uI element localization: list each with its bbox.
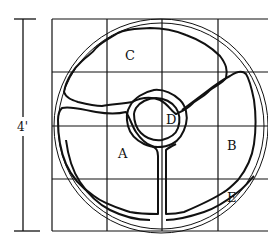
left-wavy-edge [66,140,150,220]
region-label-e: E [227,190,237,205]
garden-plan-diagram: 4' C D A B E [0,0,268,251]
region-label-d: D [166,112,176,127]
region-label-b: B [227,138,237,153]
bed-b-outline [166,72,256,214]
region-label-a: A [117,146,128,161]
region-label-c: C [125,48,135,63]
bed-a-outline [58,107,158,214]
bed-outlines [58,28,256,220]
dimension-label: 4' [17,120,28,134]
